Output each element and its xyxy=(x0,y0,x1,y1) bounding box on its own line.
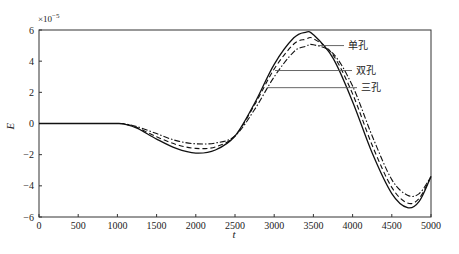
x-tick-label: 4000 xyxy=(343,220,363,231)
x-tick-label: 1000 xyxy=(107,220,127,231)
series-line-2 xyxy=(39,37,431,203)
annotation-label: 单孔 xyxy=(348,40,368,51)
y-axis-multiplier: ×10−5 xyxy=(38,12,60,24)
x-tick-label: 0 xyxy=(37,220,42,231)
y-tick-label: −4 xyxy=(23,180,34,191)
y-tick-label: 2 xyxy=(29,87,34,98)
y-tick-label: 4 xyxy=(29,56,34,67)
y-tick-label: 0 xyxy=(29,118,34,129)
x-tick-label: 500 xyxy=(71,220,86,231)
y-tick-label: 6 xyxy=(29,25,34,36)
y-tick-label: −6 xyxy=(23,212,34,223)
x-tick-label: 5000 xyxy=(421,220,441,231)
y-axis-label: E xyxy=(4,122,16,130)
annotation-label: 三孔 xyxy=(361,82,381,93)
x-tick-label: 3500 xyxy=(303,220,323,231)
y-tick-label: −2 xyxy=(23,149,34,160)
x-tick-label: 2000 xyxy=(186,220,206,231)
x-tick-label: 1500 xyxy=(147,220,167,231)
x-tick-label: 4500 xyxy=(382,220,402,231)
line-chart: 0500100015002000250030003500400045005000… xyxy=(0,0,459,254)
x-tick-label: 3000 xyxy=(264,220,284,231)
series-line-1 xyxy=(39,32,431,208)
series-layer xyxy=(39,32,431,208)
annotation-label: 双孔 xyxy=(356,65,376,76)
